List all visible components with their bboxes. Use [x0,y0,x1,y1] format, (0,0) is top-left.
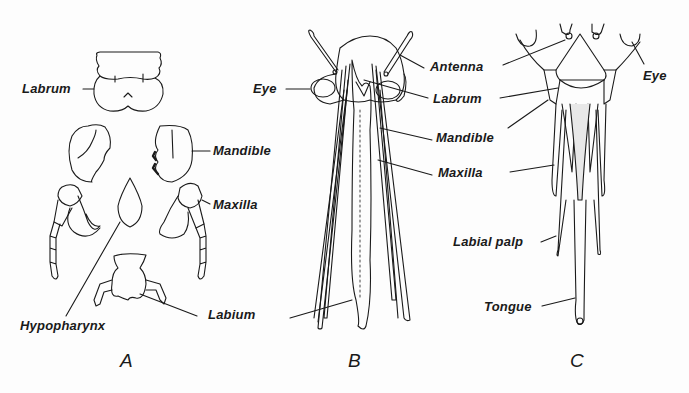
label-b-eye: Eye [253,81,277,96]
label-b-mandible: Mandible [436,130,494,145]
panel-letter-a: A [120,350,133,372]
panel-b-drawing [286,30,432,329]
label-a-labium: Labium [208,307,255,322]
label-b-maxilla: Maxilla [438,165,483,180]
label-a-hypopharynx: Hypopharynx [20,318,105,333]
mouthparts-figure: Labrum Mandible Maxilla Hypopharynx Labi… [0,0,689,393]
label-b-labrum: Labrum [433,91,482,106]
label-b-antenna: Antenna [430,59,483,74]
panel-c-drawing [500,24,644,325]
label-a-labrum: Labrum [22,81,71,96]
mouthparts-drawing [0,0,689,393]
panel-letter-c: C [570,350,584,372]
panel-letter-b: B [348,350,361,372]
label-c-eye: Eye [643,68,667,83]
label-a-maxilla: Maxilla [213,197,258,212]
label-c-tongue: Tongue [484,299,532,314]
panel-a-drawing [50,52,210,316]
label-a-mandible: Mandible [213,143,271,158]
label-c-labial-palp: Labial palp [453,234,523,249]
